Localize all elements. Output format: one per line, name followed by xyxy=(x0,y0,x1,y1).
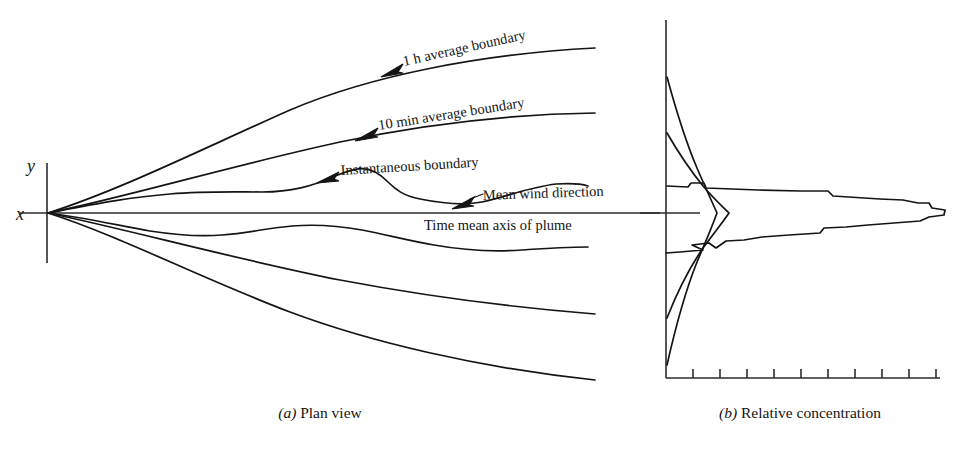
caption-relative-concentration-index: (b) xyxy=(719,404,737,421)
annotation-time-mean-axis-of-plume-label: Time mean axis of plume xyxy=(424,217,572,233)
curve-conc-10min-average-profile xyxy=(667,133,729,318)
caption-plan-view-text: Plan view xyxy=(296,404,361,421)
annotation-mean-wind-direction-label: Mean wind direction xyxy=(483,183,605,203)
figure-canvas: y x 1 h average boundary 10 min average … xyxy=(0,0,960,449)
plan-y-axis-label: y xyxy=(25,156,35,176)
leader-mean-wind-direction xyxy=(470,194,483,199)
curve-1h-average-boundary-lower xyxy=(48,213,595,380)
caption-relative-concentration-text: Relative concentration xyxy=(737,404,881,421)
curve-conc-1h-average-profile xyxy=(667,77,717,365)
conc-axis-ticks xyxy=(693,369,936,378)
plan-x-axis-label: x xyxy=(15,204,24,224)
annotation-instantaneous-boundary-label: Instantaneous boundary xyxy=(340,154,480,178)
annotation-1h-average-boundary: 1 h average boundary xyxy=(381,26,528,77)
arrow-10min-average-boundary-icon xyxy=(355,128,378,141)
panel-relative-concentration xyxy=(640,20,945,378)
caption-plan-view: (a) Plan view xyxy=(0,404,640,422)
panel-plan-view: y x 1 h average boundary 10 min average … xyxy=(15,26,660,380)
arrow-instantaneous-boundary-icon xyxy=(317,172,339,183)
annotation-instantaneous-boundary: Instantaneous boundary xyxy=(317,154,480,183)
annotation-mean-wind-direction: Mean wind direction xyxy=(452,183,605,209)
figure-container: y x 1 h average boundary 10 min average … xyxy=(0,0,960,449)
annotation-10min-average-boundary-label: 10 min average boundary xyxy=(377,94,526,133)
caption-relative-concentration: (b) Relative concentration xyxy=(640,404,960,422)
caption-plan-view-index: (a) xyxy=(278,404,296,421)
